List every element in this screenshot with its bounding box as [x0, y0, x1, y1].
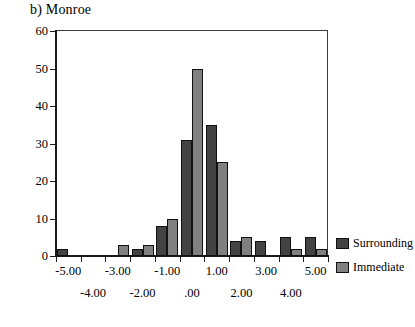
bar-surrounding-4.00: [280, 237, 291, 256]
x-axis-label: 4.00: [269, 287, 313, 300]
y-axis-label: 50: [24, 63, 48, 75]
bar-surrounding-3.00: [255, 241, 266, 256]
y-axis-label-wrap: 30: [20, 138, 48, 150]
y-axis-label: 20: [24, 175, 48, 187]
x-axis-tick: [204, 257, 205, 262]
bar-surrounding-5.00: [305, 237, 316, 256]
y-axis-label: 10: [24, 213, 48, 225]
bar-immediate--2.00: [143, 245, 154, 256]
bar-immediate-1.00: [217, 162, 228, 256]
x-axis-label: -4.00: [71, 287, 115, 300]
x-axis-label: -1.00: [145, 265, 189, 278]
x-axis-tick: [303, 257, 304, 262]
legend-label-immediate: Immediate: [353, 261, 404, 273]
bar-surrounding-.00: [181, 140, 192, 256]
chart-title: b) Monroe: [30, 2, 91, 18]
y-axis-label-wrap: 50: [20, 63, 48, 75]
x-axis-tick: [328, 257, 329, 262]
bar-immediate-5.00: [316, 249, 327, 257]
y-axis-label-wrap: 20: [20, 175, 48, 187]
y-axis-label-wrap: 60: [20, 25, 48, 37]
x-axis-label: -5.00: [46, 265, 90, 278]
y-axis-label-wrap: 0: [20, 250, 48, 262]
bar-immediate--1.00: [167, 219, 178, 257]
y-axis-label: 0: [24, 250, 48, 262]
bar-surrounding-2.00: [230, 241, 241, 256]
y-axis-label-wrap: 10: [20, 213, 48, 225]
x-axis-tick: [81, 257, 82, 262]
legend-label-surrounding: Surrounding: [353, 237, 413, 249]
bar-surrounding--5.00: [57, 249, 68, 257]
x-axis-label: 1.00: [195, 265, 239, 278]
y-axis-label: 40: [24, 100, 48, 112]
x-axis-label: 2.00: [219, 287, 263, 300]
x-axis-tick: [56, 257, 57, 262]
legend-swatch-immediate: [336, 262, 349, 273]
bar-immediate--3.00: [118, 245, 129, 256]
legend-item-surrounding: Surrounding: [336, 234, 415, 252]
chart-legend: Surrounding Immediate: [336, 234, 415, 282]
bar-immediate-2.00: [241, 237, 252, 256]
bar-surrounding--1.00: [156, 226, 167, 256]
bar-immediate-4.00: [291, 249, 302, 257]
x-axis-tick: [229, 257, 230, 262]
y-axis-label-wrap: 40: [20, 100, 48, 112]
x-axis-label: 3.00: [244, 265, 288, 278]
chart-container: b) Monroe 6050403020100 -5.00-4.00-3.00-…: [0, 0, 415, 327]
bar-surrounding--2.00: [132, 249, 143, 257]
y-axis-label: 60: [24, 25, 48, 37]
bar-immediate-.00: [192, 69, 203, 257]
x-axis-label: 5.00: [294, 265, 338, 278]
bars-layer: [56, 31, 328, 256]
legend-item-immediate: Immediate: [336, 258, 415, 276]
x-axis-tick: [180, 257, 181, 262]
x-axis-tick: [105, 257, 106, 262]
x-axis-label: .00: [170, 287, 214, 300]
x-axis-label: -2.00: [121, 287, 165, 300]
y-axis-label: 30: [24, 138, 48, 150]
x-axis-tick: [155, 257, 156, 262]
x-axis-label: -3.00: [96, 265, 140, 278]
x-axis-tick: [279, 257, 280, 262]
legend-swatch-surrounding: [336, 238, 349, 249]
bar-surrounding-1.00: [206, 125, 217, 256]
x-axis-tick: [254, 257, 255, 262]
x-axis-tick: [130, 257, 131, 262]
